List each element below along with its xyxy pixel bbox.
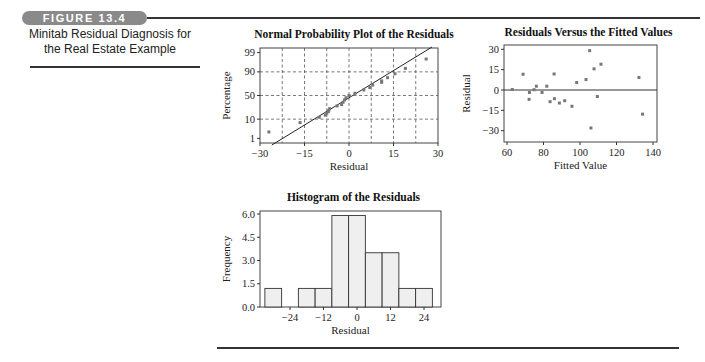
data-point	[599, 63, 602, 66]
x-tick-label: −12	[315, 312, 331, 323]
y-tick-label: 15	[489, 64, 500, 75]
data-point	[299, 121, 302, 124]
data-point	[353, 92, 356, 95]
x-tick-label: −24	[282, 312, 299, 323]
x-tick-label: 15	[388, 148, 399, 159]
x-tick-label: 60	[502, 147, 513, 158]
x-tick-label: 30	[433, 148, 444, 159]
data-point	[522, 73, 525, 76]
data-point	[545, 85, 548, 88]
normal-probability-plot: Normal Probability Plot of the Residuals…	[220, 28, 454, 172]
y-axis-label: Residual	[460, 74, 472, 113]
data-point	[404, 67, 407, 70]
data-point	[328, 107, 331, 110]
x-tick-label: −15	[296, 148, 312, 159]
chart-title: Normal Probability Plot of the Residuals	[254, 28, 454, 41]
y-tick-label: 0	[494, 85, 499, 96]
data-point	[528, 91, 531, 94]
data-point	[348, 94, 351, 97]
data-point	[371, 84, 374, 87]
data-point	[345, 96, 348, 99]
x-axis-label: Fitted Value	[554, 159, 607, 171]
x-tick-label: 80	[538, 147, 549, 158]
data-point	[589, 126, 592, 129]
data-point	[641, 113, 644, 116]
y-tick-label: −30	[483, 125, 499, 136]
chart-title: Histogram of the Residuals	[287, 191, 421, 204]
histogram-bar	[365, 253, 382, 307]
chart-title: Residuals Versus the Fitted Values	[504, 26, 673, 38]
y-tick-label: 6.0	[242, 209, 255, 220]
histogram-bar	[399, 288, 416, 307]
data-point	[558, 102, 561, 105]
data-point	[318, 116, 321, 119]
x-tick-label: 12	[385, 312, 396, 323]
y-tick-label: 30	[489, 44, 500, 55]
data-point	[563, 99, 566, 102]
x-tick-label: 100	[572, 147, 588, 158]
y-axis-label: Frequency	[220, 235, 232, 282]
data-point	[570, 105, 573, 108]
histogram-bar	[416, 288, 433, 307]
data-point	[535, 85, 538, 88]
fit-line	[272, 47, 432, 145]
y-tick-label: 1.5	[242, 278, 255, 289]
y-tick-label: 4.5	[242, 232, 255, 243]
data-point	[549, 100, 552, 103]
histogram-bar	[332, 216, 349, 307]
y-tick-label: 1	[250, 133, 255, 144]
y-axis-label: Percentage	[220, 71, 232, 119]
y-tick-label: 0.0	[242, 302, 255, 313]
data-point	[362, 88, 365, 91]
data-point	[511, 88, 514, 91]
charts-canvas: Normal Probability Plot of the Residuals…	[0, 0, 705, 362]
data-point	[528, 98, 531, 101]
x-tick-label: 0	[346, 148, 351, 159]
y-tick-label: 3.0	[242, 255, 255, 266]
data-point	[637, 76, 640, 79]
data-point	[425, 58, 428, 61]
histogram-bar	[349, 216, 366, 307]
data-point	[541, 91, 544, 94]
data-point	[588, 49, 591, 52]
x-axis-label: Residual	[331, 324, 370, 336]
histogram-bar	[382, 253, 399, 307]
y-tick-label: 99	[245, 47, 256, 58]
data-point	[368, 86, 371, 89]
data-point	[593, 67, 596, 70]
y-tick-label: 10	[245, 114, 256, 125]
data-point	[267, 130, 270, 133]
y-tick-label: 90	[245, 66, 256, 77]
data-point	[553, 72, 556, 75]
x-tick-label: 140	[645, 147, 661, 158]
plot-frame	[504, 45, 657, 142]
histogram-bar	[265, 288, 282, 307]
data-point	[575, 81, 578, 84]
histogram-of-residuals: Histogram of the Residuals−24−12012240.0…	[220, 191, 441, 336]
x-axis-label: Residual	[330, 160, 369, 172]
x-tick-label: 120	[609, 147, 625, 158]
data-point	[336, 104, 339, 107]
x-tick-label: −30	[252, 148, 268, 159]
y-tick-label: 50	[245, 90, 256, 101]
y-tick-label: −15	[483, 105, 499, 116]
data-point	[553, 97, 556, 100]
histogram-bar	[315, 288, 332, 307]
histogram-bar	[298, 288, 315, 307]
data-point	[386, 76, 389, 79]
data-point	[380, 79, 383, 82]
residuals-vs-fitted-plot: Residuals Versus the Fitted Values608010…	[460, 26, 673, 171]
data-point	[585, 78, 588, 81]
x-tick-label: 24	[419, 312, 430, 323]
x-tick-label: 0	[354, 312, 359, 323]
data-point	[533, 88, 536, 91]
data-point	[393, 72, 396, 75]
data-point	[596, 95, 599, 98]
